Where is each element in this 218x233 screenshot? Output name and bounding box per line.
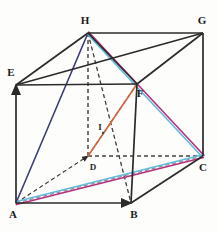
vertex-label-b: B (130, 208, 138, 220)
intersection-point-i (102, 132, 104, 134)
vertex-label-g: G (198, 14, 207, 26)
vertex-label-a: A (9, 208, 17, 220)
geometry-figure: ABCDEFGHI (0, 0, 218, 233)
edge-E-F (16, 84, 137, 85)
vertex-label-f: F (137, 87, 144, 99)
vertex-label-e: E (7, 66, 14, 78)
cube-diagram-svg: ABCDEFGHI (0, 0, 218, 233)
vertex-label-c: C (199, 161, 207, 173)
vertex-label-d: D (90, 162, 97, 172)
vertex-label-h: H (81, 14, 90, 26)
vertex-label-i: I (98, 122, 102, 132)
